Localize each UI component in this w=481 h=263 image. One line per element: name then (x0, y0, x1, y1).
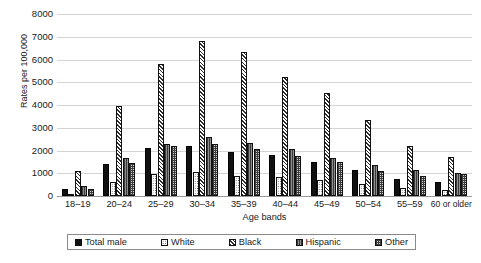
x-axis-baseline: 0 (57, 196, 472, 197)
legend-item[interactable]: Total male (75, 237, 127, 247)
bar (455, 173, 461, 196)
bar (171, 146, 177, 196)
bar (435, 182, 441, 196)
bar (212, 144, 218, 196)
bar-group (265, 14, 307, 196)
y-axis-tick-label: 5000 (32, 77, 53, 87)
plot-area: 010002000300040005000600070008000 (57, 14, 472, 196)
x-axis-tick-label: 40–44 (265, 199, 307, 210)
bar (461, 174, 467, 196)
bar (164, 144, 170, 196)
x-axis-tick-label: 45–49 (306, 199, 348, 210)
bar-groups (57, 14, 472, 196)
bar (145, 148, 151, 196)
bar (378, 171, 384, 196)
bar (68, 194, 74, 196)
bar (116, 106, 122, 196)
bar (407, 146, 413, 196)
legend-label: Other (385, 237, 408, 247)
bar (247, 143, 253, 196)
y-axis-tick-label: 0 (48, 191, 53, 201)
bar (199, 41, 205, 196)
bar (324, 93, 330, 197)
legend-item[interactable]: Other (375, 237, 408, 247)
legend-swatch-icon (161, 239, 168, 246)
bar (158, 64, 164, 196)
bar (394, 179, 400, 196)
x-axis-tick-label: 18–19 (57, 199, 99, 210)
bar (206, 137, 212, 196)
bar (420, 176, 426, 196)
bar (372, 165, 378, 196)
legend-swatch-icon (229, 239, 236, 246)
bar (88, 189, 94, 197)
x-axis-tick-label: 50–54 (348, 199, 390, 210)
bar-chart: Rates per 100,000 0100020003000400050006… (0, 0, 481, 263)
bar (365, 120, 371, 196)
x-axis-tick-label: 60 or older (431, 199, 473, 210)
bar (282, 77, 288, 196)
bar (228, 152, 234, 196)
y-axis-tick-label: 7000 (32, 32, 53, 42)
bar-group (223, 14, 265, 196)
bar (186, 146, 192, 196)
legend-swatch-icon (75, 239, 82, 246)
legend-item[interactable]: Black (229, 237, 261, 247)
bar (289, 149, 295, 196)
bar (103, 164, 109, 196)
chart-legend: Total maleWhiteBlackHispanicOther (67, 234, 416, 250)
x-axis-tick-label: 55–59 (389, 199, 431, 210)
y-axis-tick-label: 1000 (32, 168, 53, 178)
bar (254, 149, 260, 196)
legend-label: Hispanic (306, 237, 341, 247)
bar-group (306, 14, 348, 196)
x-axis-tick-labels: 18–1920–2425–2930–3435–3940–4445–4950–54… (57, 199, 472, 210)
bar-group (99, 14, 141, 196)
bar-group (140, 14, 182, 196)
legend-swatch-icon (375, 239, 382, 246)
legend-label: White (171, 237, 195, 247)
bar (75, 171, 81, 196)
bar (448, 157, 454, 196)
bar (400, 188, 406, 196)
bar (123, 158, 129, 196)
y-axis-title: Rates per 100,000 (19, 1, 29, 141)
bar-group (182, 14, 224, 196)
x-axis-tick-label: 20–24 (99, 199, 141, 210)
legend-item[interactable]: White (161, 237, 195, 247)
y-axis-tick-label: 2000 (32, 146, 53, 156)
bar (276, 177, 282, 196)
x-axis-tick-label: 25–29 (140, 199, 182, 210)
y-axis-tick-label: 3000 (32, 123, 53, 133)
bar (81, 186, 87, 196)
bar (62, 189, 68, 196)
y-axis-tick-label: 6000 (32, 55, 53, 65)
x-axis-tick-label: 35–39 (223, 199, 265, 210)
bar (193, 172, 199, 196)
bar (337, 162, 343, 196)
bar (442, 190, 448, 196)
x-axis-tick-label: 30–34 (182, 199, 224, 210)
bar (295, 156, 301, 196)
bar (241, 52, 247, 196)
legend-label: Total male (85, 237, 127, 247)
bar-group (431, 14, 473, 196)
bar (413, 170, 419, 196)
bar-group (389, 14, 431, 196)
y-axis-tick-label: 4000 (32, 100, 53, 110)
bar (311, 162, 317, 196)
bar (269, 155, 275, 196)
legend-item[interactable]: Hispanic (296, 237, 341, 247)
bar (352, 170, 358, 196)
bar (317, 180, 323, 196)
bar (330, 158, 336, 196)
x-axis-title: Age bands (57, 212, 472, 223)
legend-label: Black (239, 237, 261, 247)
y-axis-tick-label: 8000 (32, 9, 53, 19)
bar (151, 174, 157, 196)
bar-group (57, 14, 99, 196)
bar (129, 163, 135, 196)
bar-group (348, 14, 390, 196)
bar (110, 182, 116, 196)
bar (359, 184, 365, 197)
